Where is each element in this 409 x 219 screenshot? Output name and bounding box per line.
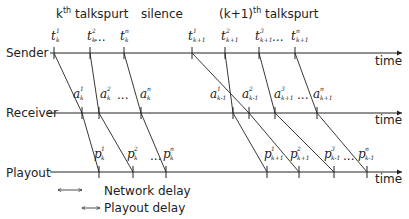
svg-text:k: k <box>134 154 138 161</box>
a-k1-3-label: a3k+1 <box>274 85 293 101</box>
svg-text:2: 2 <box>248 85 253 92</box>
svg-text:k: k <box>101 154 105 161</box>
playout-ellipsis-1: ... <box>150 149 161 163</box>
svg-text:k+1: k+1 <box>260 36 272 43</box>
svg-text:k+1: k+1 <box>297 154 309 161</box>
playout-delay-label: Playout delay <box>104 201 185 215</box>
p-k1-2-label: p2k+1 <box>290 145 309 161</box>
svg-text:k: k <box>80 94 84 101</box>
sender-time-label: time <box>375 54 402 68</box>
svg-text:k: k <box>147 94 151 101</box>
network-delay-label: Network delay <box>104 184 191 198</box>
svg-text:n: n <box>125 27 129 34</box>
k1th-talkspurt-header: (k+1)th talkspurt <box>219 6 319 21</box>
playout-buffer-lines <box>82 113 367 172</box>
svg-text:k: k <box>125 36 129 43</box>
svg-text:k+1: k+1 <box>271 154 283 161</box>
t-k1-3-label: t3k+1 <box>255 27 272 43</box>
svg-text:k-1: k-1 <box>365 154 374 161</box>
svg-text:n: n <box>296 27 300 34</box>
sender-ellipsis-2: ... <box>272 30 283 44</box>
svg-text:2: 2 <box>225 27 230 34</box>
svg-text:k: k <box>107 94 111 101</box>
sender-time-labels: t1k t2k ... tnk t1k+1 t2k+1 t3k+1 ... tn… <box>51 27 308 44</box>
a-k-1-label: a1k <box>73 85 84 101</box>
t-k-1-label: t1k <box>51 27 60 43</box>
svg-text:2: 2 <box>106 85 111 92</box>
p-k1-n-label: pnk-1 <box>358 145 374 161</box>
svg-text:k: k <box>56 36 60 43</box>
svg-text:1: 1 <box>101 145 105 152</box>
svg-text:3: 3 <box>260 27 264 34</box>
svg-text:1: 1 <box>80 85 84 92</box>
svg-text:k+1: k+1 <box>320 94 332 101</box>
t-k-n-label: tnk <box>120 27 129 43</box>
silence-header: silence <box>141 7 183 21</box>
a-k-n-label: ank <box>140 85 151 101</box>
svg-text:1: 1 <box>271 145 275 152</box>
svg-text:k-1: k-1 <box>249 94 258 101</box>
svg-text:k+1: k+1 <box>226 36 238 43</box>
svg-text:k+1: k+1 <box>296 36 308 43</box>
svg-text:1: 1 <box>56 27 60 34</box>
svg-text:n: n <box>147 85 151 92</box>
svg-text:n: n <box>320 85 324 92</box>
playout-ellipsis-2: ... <box>343 149 354 163</box>
svg-text:k+1: k+1 <box>193 36 205 43</box>
svg-text:3: 3 <box>281 85 285 92</box>
p-k1-3-label: p3k-1 <box>324 145 340 161</box>
legend: Network delay Playout delay <box>58 184 191 215</box>
talkspurt-timing-diagram: kth talkspurt silence (k+1)th talkspurt … <box>0 0 409 219</box>
a-k-2-label: a2k <box>100 85 111 101</box>
svg-text:n: n <box>170 145 174 152</box>
t-k1-2-label: t2k+1 <box>221 27 238 43</box>
svg-text:1: 1 <box>193 27 197 34</box>
a-k1-1-label: a1k-1 <box>210 85 226 101</box>
p-k-2-label: p2k <box>127 145 138 161</box>
receiver-time-label: time <box>375 113 402 127</box>
p-k-1-label: p1k <box>94 145 105 161</box>
svg-text:3: 3 <box>331 145 335 152</box>
t-k1-n-label: tnk+1 <box>291 27 308 43</box>
svg-text:2: 2 <box>133 145 138 152</box>
svg-text:k-1: k-1 <box>331 154 340 161</box>
svg-text:2: 2 <box>296 145 301 152</box>
receiver-arrival-labels: a1k a2k ... ank a1k-1 a2k-1 a3k+1 ... an… <box>73 85 332 102</box>
t-k1-1-label: t1k+1 <box>188 27 205 43</box>
a-k1-2-label: a2k-1 <box>242 85 258 101</box>
network-transit-lines <box>54 53 317 113</box>
p-k-n-label: pnk <box>163 145 174 161</box>
receiver-ellipsis-2: ... <box>297 88 308 102</box>
sender-ellipsis-1: ... <box>94 30 105 44</box>
svg-text:k: k <box>170 154 174 161</box>
svg-text:n: n <box>365 145 369 152</box>
kth-talkspurt-header: kth talkspurt <box>56 6 129 21</box>
p-k1-1-label: p1k+1 <box>264 145 283 161</box>
playout-time-labels: p1k p2k ... pnk p1k+1 p2k+1 p3k-1 ... pn… <box>94 145 374 163</box>
a-k1-n-label: ank+1 <box>313 85 332 101</box>
receiver-ellipsis-1: ... <box>117 88 128 102</box>
playout-time-label: time <box>375 172 402 186</box>
svg-text:k-1: k-1 <box>217 94 226 101</box>
svg-text:k+1: k+1 <box>281 94 293 101</box>
sender-row-label: Sender <box>6 46 49 60</box>
svg-text:1: 1 <box>217 85 221 92</box>
playout-row-label: Playout <box>6 166 51 180</box>
